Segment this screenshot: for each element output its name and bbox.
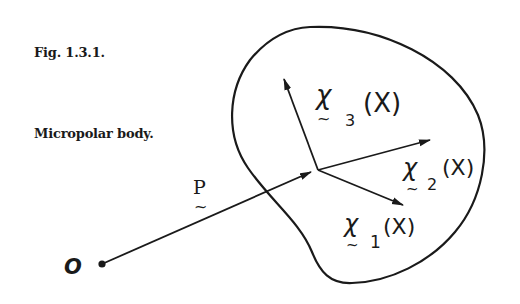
director-1-tilde: ~: [346, 236, 359, 254]
director-2-symbol: χ: [401, 154, 418, 182]
figure-description: Micropolar body.: [34, 126, 154, 141]
director-3-tilde: ~: [317, 109, 330, 128]
director-2-tilde: ~: [406, 180, 419, 198]
director-2-argument: (X): [442, 155, 474, 180]
director-1-argument: (X): [383, 214, 415, 239]
position-vector-arrow: [102, 172, 311, 264]
director-3-index: 3: [345, 111, 355, 130]
director-1-index: 1: [370, 232, 381, 252]
figure-number: Fig. 1.3.1.: [34, 45, 105, 60]
director-1-symbol: χ: [342, 210, 359, 238]
director-3-label: χ ~ 3 (X): [314, 80, 401, 130]
director-3-arrow: [284, 79, 318, 170]
director-1-label: χ ~ 1 (X): [342, 210, 415, 254]
director-1-arrow: [318, 170, 403, 205]
position-vector-label: P: [193, 176, 206, 198]
director-2-label: χ ~ 2 (X): [401, 154, 474, 198]
director-3-symbol: χ: [314, 80, 333, 110]
micropolar-body-figure: Fig. 1.3.1. Micropolar body. O P ~ χ ~ 3: [0, 0, 520, 304]
director-2-index: 2: [427, 175, 437, 194]
position-vector-tilde: ~: [194, 197, 207, 216]
origin-label: O: [64, 255, 82, 279]
director-3-argument: (X): [363, 88, 401, 118]
